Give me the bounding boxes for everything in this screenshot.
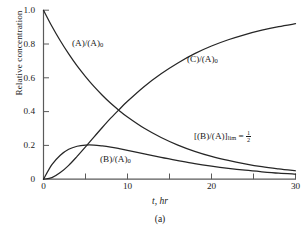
curve-label-b: (B)/(A)0	[100, 154, 131, 164]
y-tick-label-02: 0.2	[9, 140, 35, 150]
x-tick-label-0: 0	[29, 181, 59, 191]
curve-label-c: (C)/(A)0	[187, 54, 218, 64]
curve-label-a: (A)/(A)0	[72, 38, 103, 48]
y-axis-ticks	[44, 10, 50, 145]
figure-container: Relative concentration 1.0 0.8 0.6 0.4 0…	[0, 0, 306, 230]
y-tick-label-06: 0.6	[9, 73, 35, 83]
x-tick-label-30: 30	[281, 181, 307, 191]
curve-a-over-a0	[44, 10, 296, 171]
curve-label-a-text: (A)/(A)	[72, 38, 100, 48]
y-tick-label-1: 1.0	[9, 5, 35, 15]
limit-annotation: [(B)/(A)]lim = 12	[194, 130, 251, 144]
curve-label-c-subscript: 0	[215, 57, 218, 64]
curve-label-a-subscript: 0	[100, 41, 103, 48]
y-tick-label-04: 0.4	[9, 106, 35, 116]
limit-annotation-fraction: 12	[246, 130, 251, 144]
curve-label-b-subscript: 0	[128, 157, 131, 164]
x-axis-ticks	[86, 174, 296, 180]
y-tick-label-08: 0.8	[9, 39, 35, 49]
curve-label-b-text: (B)/(A)	[100, 154, 128, 164]
limit-annotation-subscript: lim	[228, 134, 237, 141]
x-axis-title-text: t, hr	[152, 196, 168, 206]
x-axis-title: t, hr	[120, 196, 200, 206]
x-tick-label-10: 10	[113, 181, 143, 191]
data-curves	[44, 10, 296, 179]
fraction-denominator: 2	[246, 137, 251, 143]
x-tick-label-20: 20	[197, 181, 227, 191]
figure-caption: (a)	[120, 214, 200, 224]
curve-label-c-text: (C)/(A)	[187, 54, 215, 64]
limit-annotation-prefix: [(B)/(A)]	[194, 131, 228, 141]
axis-lines	[43, 10, 296, 180]
